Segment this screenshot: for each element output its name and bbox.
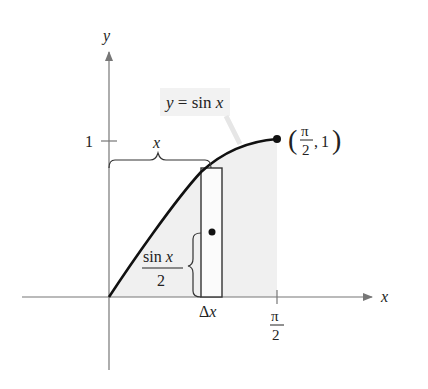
x-tick-label-denominator: 2 bbox=[272, 327, 280, 343]
brace-sin-label-numerator: sin x bbox=[143, 248, 173, 265]
label-leader-line bbox=[226, 116, 240, 144]
brace-sin-label-denominator: 2 bbox=[157, 272, 165, 289]
point-label-numerator: π bbox=[301, 123, 309, 139]
point-label-y: 1 bbox=[321, 133, 329, 150]
endpoint-dot bbox=[273, 135, 281, 143]
point-comma: , bbox=[314, 133, 318, 150]
diagram-canvas: y x 1 π 2 y = sin x x sin x 2 Δx ( π 2 ,… bbox=[0, 0, 428, 389]
horizontal-brace bbox=[109, 153, 211, 168]
y-tick-label: 1 bbox=[85, 133, 93, 150]
x-tick-label-numerator: π bbox=[271, 308, 279, 324]
point-open-paren: ( bbox=[288, 124, 297, 155]
function-label: y = sin x bbox=[164, 93, 224, 112]
delta-x-label: Δx bbox=[199, 303, 216, 320]
point-label-denominator: 2 bbox=[302, 142, 310, 158]
x-axis-label: x bbox=[380, 288, 388, 305]
y-axis-label: y bbox=[101, 27, 111, 45]
point-close-paren: ) bbox=[332, 124, 341, 155]
centroid-dot bbox=[209, 229, 216, 236]
brace-x-label: x bbox=[152, 134, 160, 151]
